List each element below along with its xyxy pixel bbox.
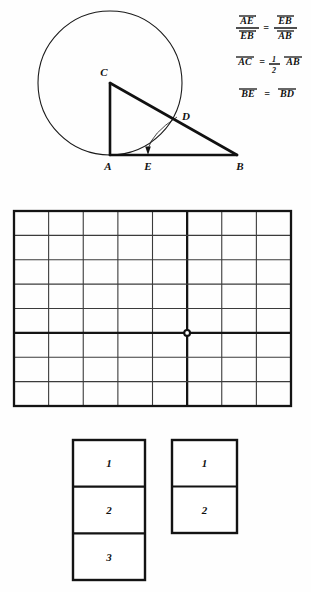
right-box-cell-label: 1: [202, 457, 208, 469]
eq3-relation: =: [264, 88, 270, 99]
circle-triangle-figure: C D A E B: [38, 11, 244, 172]
eq2-left-term: AC: [237, 56, 252, 67]
figure-sheet: C D A E B AE EB = EB AB: [0, 0, 311, 592]
eq2-coefficient-denominator: 2: [271, 66, 276, 75]
left-box-cell-label: 1: [106, 457, 112, 469]
point-label-b: B: [235, 160, 243, 172]
eq1-relation: =: [263, 22, 269, 33]
point-label-d: D: [181, 110, 190, 122]
point-label-a: A: [103, 160, 111, 172]
left-box-cell-label: 3: [105, 551, 112, 563]
point-label-e: E: [143, 160, 151, 172]
numbered-boxes: 12312: [73, 440, 237, 580]
equation-equal: BE = BD: [239, 88, 296, 99]
point-label-c: C: [100, 66, 108, 78]
equation-half: AC = 1 2 AB: [236, 55, 302, 75]
right-box: 12: [172, 440, 237, 533]
equations-block: AE EB = EB AB AC = 1 2: [236, 15, 302, 99]
grid-center-marker: [184, 330, 190, 336]
geometry-worksheet-canvas: C D A E B AE EB = EB AB: [0, 0, 311, 592]
eq2-right-term: AB: [285, 56, 300, 67]
right-box-cell-label: 2: [201, 504, 208, 516]
left-box-cell-label: 2: [105, 504, 112, 516]
rectangle-grid: [14, 211, 291, 406]
left-box: 123: [73, 440, 145, 580]
eq2-coefficient-numerator: 1: [272, 55, 276, 64]
equation-proportion: AE EB = EB AB: [236, 15, 297, 41]
eq2-relation: =: [259, 56, 265, 67]
